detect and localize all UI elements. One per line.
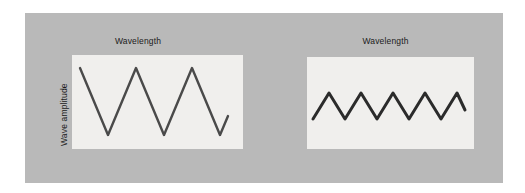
- short-wavelength-wave-graphic: [307, 57, 474, 149]
- wavelength-axis-label: Wavelength: [18, 37, 258, 46]
- wave-comparison-figure: Wavelength Wave amplitude Wavelength Wav…: [0, 0, 525, 193]
- long-wavelength-panel: Wavelength Wave amplitude: [25, 13, 265, 183]
- long-wavelength-plot-area: [72, 55, 243, 149]
- short-wavelength-plot-area: [307, 57, 474, 149]
- short-wavelength-panel: Wavelength Wave amplitude: [260, 13, 503, 183]
- figure-backdrop: Wavelength Wave amplitude Wavelength Wav…: [25, 13, 503, 183]
- wavelength-axis-label: Wavelength: [264, 37, 507, 46]
- wave-amplitude-axis-label: Wave amplitude: [60, 83, 69, 146]
- long-wavelength-wave-graphic: [72, 55, 243, 149]
